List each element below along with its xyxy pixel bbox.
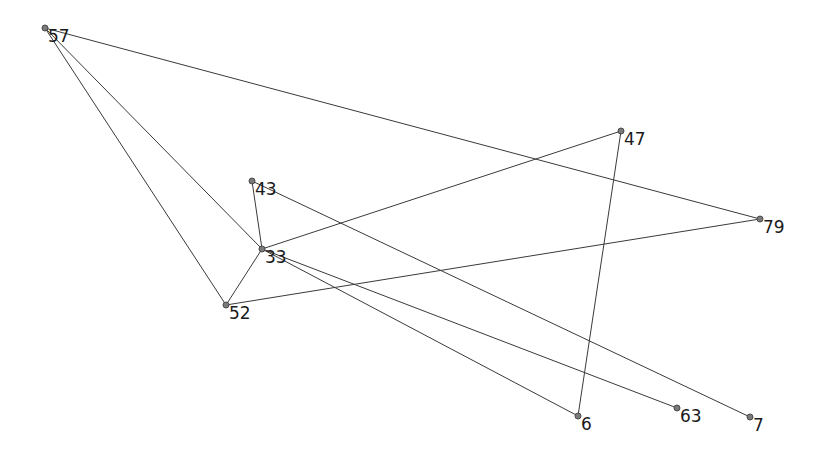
node-label: 47	[624, 129, 646, 149]
edge-52-79	[226, 219, 760, 305]
node-47[interactable]: 47	[618, 128, 646, 149]
node-label: 63	[680, 406, 702, 426]
node-63[interactable]: 63	[674, 405, 702, 426]
node-52[interactable]: 52	[223, 302, 251, 323]
node-label: 57	[48, 26, 70, 46]
node-label: 33	[265, 247, 287, 267]
node-79[interactable]: 79	[757, 216, 785, 237]
node-label: 7	[753, 415, 764, 435]
edges-layer	[45, 28, 760, 417]
node-label: 79	[763, 217, 785, 237]
edge-57-33	[45, 28, 262, 249]
node-label: 6	[581, 414, 592, 434]
edge-33-63	[262, 249, 677, 408]
edge-43-7	[252, 181, 750, 417]
nodes-layer: 5747437933526637	[42, 25, 785, 435]
node-6[interactable]: 6	[575, 413, 592, 434]
network-graph: 5747437933526637	[0, 0, 820, 460]
node-33[interactable]: 33	[259, 246, 287, 267]
edge-52-33	[226, 249, 262, 305]
node-label: 43	[255, 179, 277, 199]
edge-33-47	[262, 131, 621, 249]
edge-57-79	[45, 28, 760, 219]
node-57[interactable]: 57	[42, 25, 70, 46]
node-7[interactable]: 7	[747, 414, 764, 435]
edge-47-6	[578, 131, 621, 416]
node-label: 52	[229, 303, 251, 323]
